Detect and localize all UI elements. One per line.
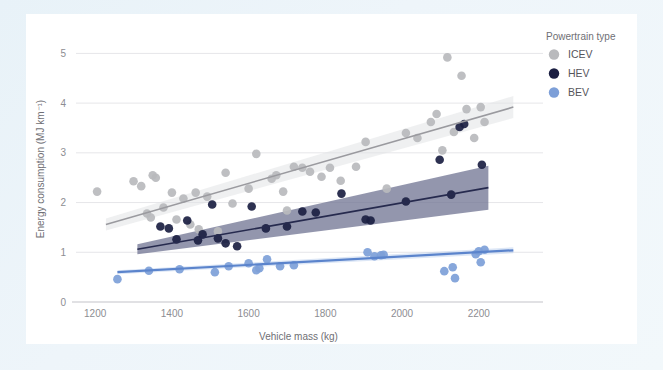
data-point-icev — [361, 138, 370, 147]
legend-label-bev[interactable]: BEV — [568, 86, 589, 98]
data-point-icev — [326, 163, 335, 172]
y-tick-label: 4 — [60, 98, 66, 109]
data-point-icev — [129, 177, 138, 186]
data-point-hev — [208, 200, 217, 209]
data-point-icev — [427, 118, 436, 127]
x-tick-label: 1600 — [238, 308, 261, 319]
data-point-icev — [476, 103, 485, 112]
data-point-hev — [247, 202, 256, 211]
legend-label-hev[interactable]: HEV — [568, 67, 590, 79]
data-point-hev — [435, 156, 444, 165]
data-point-icev — [336, 176, 345, 185]
data-point-bev — [211, 268, 220, 277]
legend-marker-hev[interactable] — [549, 68, 559, 78]
legend-marker-bev[interactable] — [549, 87, 559, 97]
data-point-bev — [263, 255, 272, 264]
data-point-icev — [221, 168, 230, 177]
y-tick-label: 2 — [60, 197, 66, 208]
data-point-bev — [113, 275, 122, 284]
x-tick-label: 1400 — [161, 308, 184, 319]
data-point-icev — [283, 206, 292, 215]
data-point-bev — [448, 263, 457, 272]
data-point-hev — [156, 222, 165, 231]
data-point-icev — [317, 172, 326, 181]
data-point-icev — [252, 150, 261, 159]
legend-label-icev[interactable]: ICEV — [568, 48, 593, 60]
data-point-icev — [244, 184, 253, 193]
data-point-bev — [244, 259, 253, 268]
data-point-icev — [462, 105, 471, 114]
data-point-bev — [476, 258, 485, 267]
data-point-icev — [168, 188, 177, 197]
data-point-icev — [480, 118, 489, 127]
data-point-icev — [172, 215, 181, 224]
data-point-hev — [298, 207, 307, 216]
confidence-bands — [106, 96, 513, 274]
legend-marker-icev[interactable] — [549, 49, 559, 59]
data-point-hev — [311, 208, 320, 217]
data-point-hev — [366, 216, 375, 225]
data-point-hev — [221, 239, 230, 248]
y-tick-label: 1 — [60, 247, 66, 258]
data-point-bev — [451, 274, 460, 283]
x-axis-title: Vehicle mass (kg) — [259, 331, 338, 342]
x-tick-label: 1800 — [314, 308, 337, 319]
data-point-hev — [165, 224, 174, 233]
data-point-icev — [402, 129, 411, 138]
data-point-icev — [470, 134, 479, 143]
x-tick-label: 2000 — [391, 308, 414, 319]
data-point-icev — [306, 167, 315, 176]
data-point-icev — [279, 187, 288, 196]
chart-card: 012345120014001600180020002200Vehicle ma… — [26, 14, 637, 344]
chart-page: 012345120014001600180020002200Vehicle ma… — [0, 0, 663, 370]
legend: Powertrain typeICEVHEVBEV — [546, 31, 616, 98]
data-point-hev — [337, 189, 346, 198]
data-point-icev — [137, 182, 146, 191]
data-point-icev — [438, 146, 447, 155]
scatter-chart: 012345120014001600180020002200Vehicle ma… — [26, 14, 637, 344]
data-point-icev — [432, 110, 441, 119]
data-point-icev — [147, 213, 156, 222]
data-point-icev — [191, 188, 200, 197]
data-point-icev — [352, 162, 361, 171]
data-point-bev — [440, 267, 449, 276]
x-tick-label: 2200 — [468, 308, 491, 319]
data-point-icev — [382, 184, 391, 193]
y-tick-label: 5 — [60, 48, 66, 59]
data-point-icev — [228, 199, 237, 208]
y-tick-label: 3 — [60, 147, 66, 158]
data-point-icev — [457, 71, 466, 80]
data-point-hev — [183, 216, 192, 225]
x-tick-label: 1200 — [84, 308, 107, 319]
legend-title: Powertrain type — [546, 31, 616, 42]
data-point-icev — [151, 173, 160, 182]
data-point-icev — [443, 53, 452, 62]
y-axis-title: Energy consumption (MJ km⁻¹) — [35, 100, 46, 238]
data-point-hev — [478, 160, 487, 169]
data-point-icev — [93, 187, 102, 196]
y-tick-label: 0 — [60, 297, 66, 308]
data-point-hev — [233, 242, 242, 251]
